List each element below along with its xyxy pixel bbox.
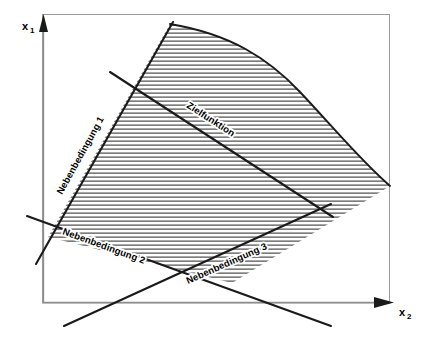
y-axis-label-subscript: 1 [30, 26, 35, 35]
x-axis-arrow-icon [374, 297, 394, 308]
y-axis-arrow-icon [39, 14, 48, 32]
y-axis-label: x [22, 20, 29, 32]
linear-programming-figure: Zielfunktion Nebenbedingung 1 Nebenbedin… [0, 0, 432, 339]
diagram-canvas: Zielfunktion Nebenbedingung 1 Nebenbedin… [0, 0, 432, 339]
x-axis-label-subscript: 2 [407, 312, 412, 321]
x-axis-label: x [399, 306, 406, 318]
